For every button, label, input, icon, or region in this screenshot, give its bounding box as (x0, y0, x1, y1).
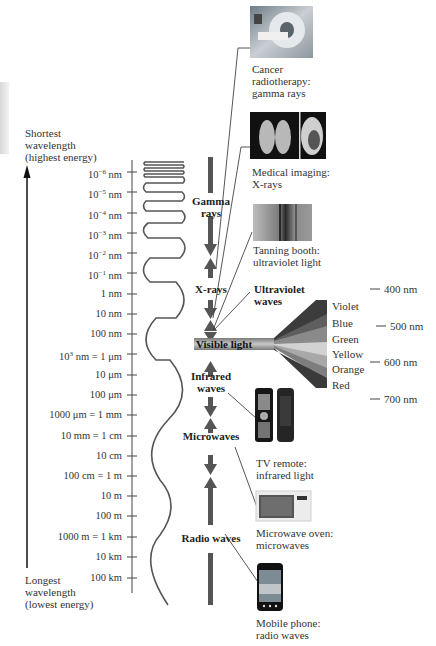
caption-line: Cancer (252, 63, 311, 75)
caption-mobile-phone: Mobile phone: radio waves (256, 617, 320, 641)
mobile-phone-photo (257, 563, 283, 611)
energy-arrow (24, 165, 31, 568)
band-label-line: Infrared (186, 370, 236, 382)
spectrum-graphics (0, 0, 436, 646)
tick-label: 10 nm (4, 308, 122, 320)
label-line: Shortest (25, 127, 97, 139)
tick-label: 100 km (4, 572, 122, 584)
tv-remotes-photo (255, 388, 294, 442)
caption-tanning-booth: Tanning booth: ultraviolet light (253, 244, 321, 268)
caption-line: gamma rays (252, 87, 311, 99)
nm-mark-600: 600 nm (384, 356, 417, 368)
label-line: wavelength (25, 586, 94, 598)
band-label-line: Radio waves (176, 532, 246, 544)
band-gamma-rays: Gamma rays (186, 195, 236, 219)
caption-tv-remote: TV remote: infrared light (256, 457, 314, 481)
band-label-line: Microwaves (176, 430, 246, 442)
band-visible-light: Visible light (196, 338, 252, 350)
tick-label: 10 cm (4, 450, 122, 462)
band-label-line: Ultraviolet (254, 283, 305, 295)
caption-line: TV remote: (256, 457, 314, 469)
caption-line: Mobile phone: (256, 617, 320, 629)
tick-label: 100 m (4, 510, 122, 522)
band-label-line: X-rays (186, 283, 236, 295)
tick-label: 10 μm (4, 369, 122, 381)
tick-label: 1000 m = 1 km (4, 531, 122, 543)
caption-line: Microwave oven: (256, 527, 333, 539)
tick-label: 10−5 nm (4, 186, 122, 201)
wavelength-axis (127, 160, 137, 593)
tick-label: 10−2 nm (4, 247, 122, 262)
nm-mark-700: 700 nm (384, 393, 417, 405)
tick-label: 10 m (4, 490, 122, 502)
tick-label: 100 μm (4, 389, 122, 401)
color-orange: Orange (332, 363, 364, 375)
band-radio-waves: Radio waves (176, 532, 246, 544)
band-infrared: Infrared waves (186, 370, 236, 394)
tanning-booth-photo (253, 204, 312, 241)
shortest-wavelength-label: Shortest wavelength (highest energy) (25, 127, 97, 163)
caption-line: Medical imaging: (252, 166, 330, 178)
band-label-line: rays (186, 207, 236, 219)
band-label-line: waves (186, 382, 236, 394)
mri-machine-photo (250, 6, 313, 58)
tick-label: 10−1 nm (4, 267, 122, 282)
microwave-oven-photo (256, 491, 311, 521)
band-microwaves: Microwaves (176, 430, 246, 442)
caption-line: Tanning booth: (253, 244, 321, 256)
tick-label: 10 mm = 1 cm (4, 430, 122, 442)
caption-line: microwaves (256, 539, 333, 551)
caption-microwave-oven: Microwave oven: microwaves (256, 527, 333, 551)
caption-line: ultraviolet light (253, 256, 321, 268)
band-label-line: Visible light (196, 338, 252, 350)
caption-line: radiotherapy: (252, 75, 311, 87)
color-yellow: Yellow (332, 348, 363, 360)
label-line: (highest energy) (25, 151, 97, 163)
tick-label: 10 km (4, 551, 122, 563)
color-blue: Blue (332, 317, 353, 329)
caption-radiotherapy: Cancer radiotherapy: gamma rays (252, 63, 311, 99)
tick-label: 10−4 nm (4, 207, 122, 222)
band-label-line: waves (254, 295, 305, 307)
caption-line: X-rays (252, 178, 330, 190)
nm-dashes (370, 289, 386, 399)
band-label-line: Gamma (186, 195, 236, 207)
tick-label: 1 nm (4, 288, 122, 300)
tick-label: 1000 μm = 1 mm (4, 409, 122, 421)
color-red: Red (332, 379, 350, 391)
caption-medical-imaging: Medical imaging: X-rays (252, 166, 330, 190)
nm-mark-500: 500 nm (390, 320, 423, 332)
tick-label: 100 cm = 1 m (4, 470, 122, 482)
tick-label: 103 nm = 1 μm (4, 348, 122, 363)
tick-label: 10−6 nm (4, 166, 122, 181)
band-x-rays: X-rays (186, 283, 236, 295)
label-line: (lowest energy) (25, 598, 94, 610)
color-violet: Violet (332, 300, 359, 312)
caption-line: infrared light (256, 469, 314, 481)
nm-mark-400: 400 nm (384, 283, 417, 295)
band-ultraviolet: Ultraviolet waves (254, 283, 305, 307)
caption-line: radio waves (256, 629, 320, 641)
color-green: Green (332, 333, 359, 345)
chest-xray-photo (250, 112, 326, 159)
label-line: wavelength (25, 139, 97, 151)
tick-label: 10−3 nm (4, 227, 122, 242)
tick-label: 100 nm (4, 328, 122, 340)
